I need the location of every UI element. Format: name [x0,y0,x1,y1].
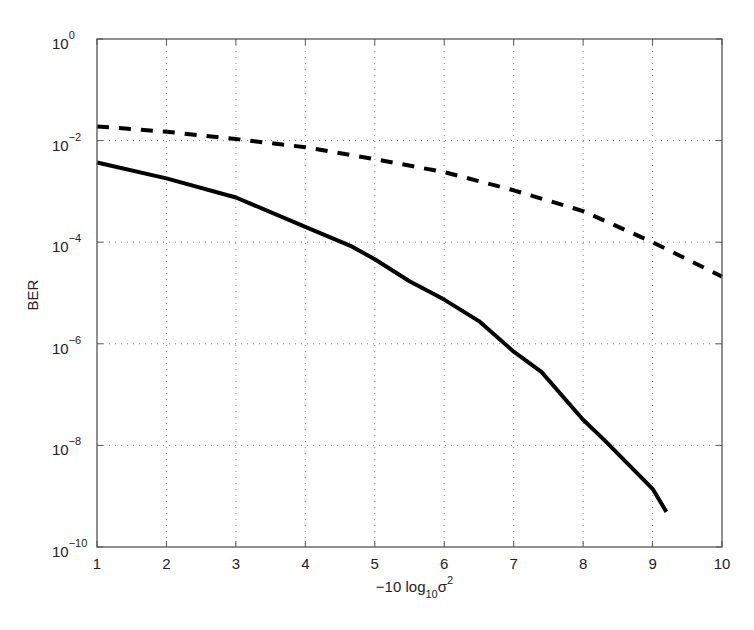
x-tick-label: 5 [371,555,379,572]
data-series [97,126,722,512]
solid-curve [97,163,666,512]
y-axis-label: BER [24,279,41,310]
x-tick-label: 9 [648,555,656,572]
x-tick-label: 3 [232,555,240,572]
x-tick-label: 7 [509,555,517,572]
x-axis-ticks: 12345678910 [93,39,731,572]
dashed-curve [97,126,722,276]
x-tick-label: 4 [301,555,309,572]
plot-frame [97,39,722,547]
x-tick-label: 2 [162,555,170,572]
x-tick-label: 1 [93,555,101,572]
y-axis-ticks: 10010−210−410−610−810−10 [52,29,722,560]
x-axis-label: −10 log10σ2 [376,574,453,600]
x-tick-label: 6 [440,555,448,572]
y-tick-label: 100 [52,29,75,52]
x-tick-label: 10 [714,555,731,572]
x-tick-label: 8 [579,555,587,572]
y-tick-label: 10−2 [52,131,81,154]
y-tick-label: 10−4 [52,232,81,255]
y-tick-label: 10−6 [52,334,81,357]
y-tick-label: 10−10 [52,537,87,560]
y-tick-label: 10−8 [52,435,81,458]
grid-lines [97,39,722,547]
ber-chart: 12345678910 10010−210−410−610−810−10 −10… [0,0,754,630]
